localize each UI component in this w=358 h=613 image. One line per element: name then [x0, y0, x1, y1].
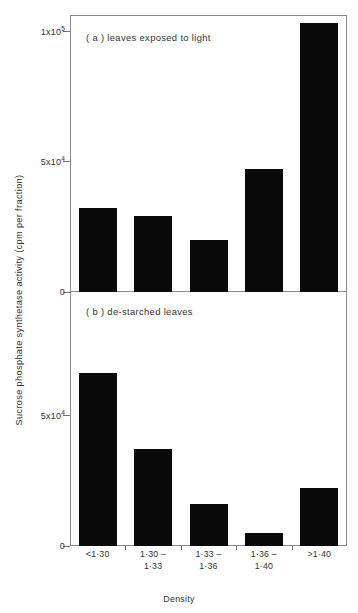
x-axis-category-label: <1·30: [70, 549, 125, 561]
x-axis-category-label: 1·36 – 1·40: [236, 549, 291, 572]
bar: [134, 216, 172, 292]
x-axis-category-label: >1·40: [292, 549, 347, 561]
bar: [134, 449, 172, 546]
panel-a-caption: ( a ) leaves exposed to light: [86, 32, 211, 43]
figure-container: Sucrose phosphate synthetase activity (c…: [0, 0, 358, 613]
panel-a: ( a ) leaves exposed to light 05x1041x10…: [70, 15, 347, 292]
bar: [190, 240, 228, 292]
x-axis-category-label: 1·33 – 1·36: [181, 549, 236, 572]
x-axis-title: Density: [0, 594, 358, 604]
y-tick-label: 1x105: [41, 25, 65, 37]
bar: [300, 488, 338, 546]
x-axis-category-labels: <1·301·30 – 1·331·33 – 1·361·36 – 1·40>1…: [70, 549, 347, 589]
x-axis-category-label: 1·30 – 1·33: [125, 549, 180, 572]
y-tick-label: 5x104: [41, 409, 65, 421]
panel-b-caption: ( b ) de-starched leaves: [86, 306, 193, 317]
bar: [190, 504, 228, 546]
bar: [79, 373, 117, 546]
bar: [300, 23, 338, 292]
y-axis-title: Sucrose phosphate synthetase activity (c…: [14, 150, 30, 450]
bar: [245, 533, 283, 546]
y-tick-label: 5x104: [41, 155, 65, 167]
panel-b: ( b ) de-starched leaves 05x104: [70, 292, 347, 546]
bar: [79, 208, 117, 292]
y-tick-label: 0: [60, 287, 65, 297]
bar: [245, 169, 283, 292]
y-tick-label: 0: [60, 541, 65, 551]
